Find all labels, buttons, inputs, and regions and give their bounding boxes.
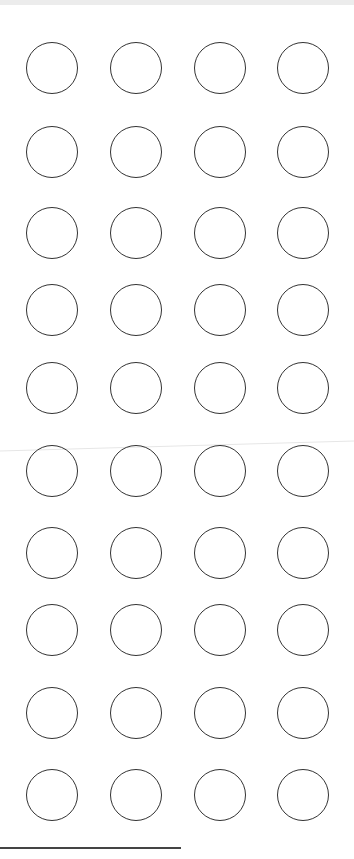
- top-edge-shadow: [0, 0, 354, 5]
- circle-r8-c4: [277, 604, 329, 656]
- circle-r3-c1: [26, 207, 78, 259]
- circle-r1-c2: [110, 42, 162, 94]
- circle-r7-c4: [277, 527, 329, 579]
- circle-r4-c2: [110, 284, 162, 336]
- circle-r9-c4: [277, 687, 329, 739]
- circle-r5-c4: [277, 362, 329, 414]
- circle-r7-c2: [110, 527, 162, 579]
- circle-r1-c3: [194, 42, 246, 94]
- circle-r6-c3: [194, 445, 246, 497]
- circle-r8-c3: [194, 604, 246, 656]
- circle-r7-c1: [26, 527, 78, 579]
- circle-r5-c3: [194, 362, 246, 414]
- circle-r2-c2: [110, 126, 162, 178]
- circle-r8-c2: [110, 604, 162, 656]
- circle-r6-c4: [277, 445, 329, 497]
- circle-r5-c1: [26, 362, 78, 414]
- circle-r5-c2: [110, 362, 162, 414]
- circle-r1-c4: [277, 42, 329, 94]
- circle-r4-c4: [277, 284, 329, 336]
- circle-r10-c4: [277, 769, 329, 821]
- circle-r2-c1: [26, 126, 78, 178]
- circle-r3-c3: [194, 207, 246, 259]
- circle-r7-c3: [194, 527, 246, 579]
- circle-r6-c2: [110, 445, 162, 497]
- bottom-rule-line: [0, 847, 181, 849]
- circle-r9-c3: [194, 687, 246, 739]
- circle-r3-c4: [277, 207, 329, 259]
- circle-r9-c2: [110, 687, 162, 739]
- circle-r10-c2: [110, 769, 162, 821]
- circle-r1-c1: [26, 42, 78, 94]
- circle-r10-c3: [194, 769, 246, 821]
- circle-r6-c1: [26, 445, 78, 497]
- circle-r4-c1: [26, 284, 78, 336]
- circle-r2-c3: [194, 126, 246, 178]
- circle-r8-c1: [26, 604, 78, 656]
- circle-r10-c1: [26, 769, 78, 821]
- circle-r3-c2: [110, 207, 162, 259]
- circle-r9-c1: [26, 687, 78, 739]
- circle-r2-c4: [277, 126, 329, 178]
- circle-r4-c3: [194, 284, 246, 336]
